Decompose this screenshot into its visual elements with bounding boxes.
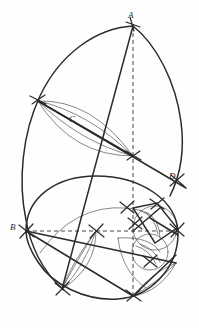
point-label-d: D: [169, 172, 176, 181]
small-chord-1: [133, 208, 160, 231]
inner-sweep-arc-left: [40, 208, 126, 253]
ray-through-D: [38, 101, 186, 188]
chord-A-to-lower-left: [62, 26, 133, 289]
primary-curves: [22, 26, 186, 299]
geometric-construction-figure: A C D B: [0, 0, 199, 328]
small-circle-secondary: [132, 234, 168, 270]
point-label-c: C: [69, 115, 75, 124]
large-lower-circle: [26, 176, 178, 299]
construction-svg: [0, 0, 199, 328]
point-label-b: B: [10, 223, 16, 232]
point-label-a: A: [128, 11, 134, 20]
compass-tick-marks: [19, 17, 184, 301]
